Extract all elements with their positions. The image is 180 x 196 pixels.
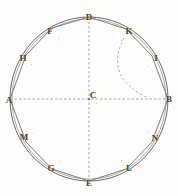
vertex-label-L: L [126,164,132,173]
speck-mark [58,38,59,39]
speck-mark [31,64,32,65]
vertex-label-G: G [47,164,54,173]
speck-mark [148,66,149,67]
vertex-label-E: E [86,179,92,188]
construction-arc [118,38,146,97]
vertex-label-D: D [86,13,93,22]
speck-mark [121,160,122,161]
speck-mark [96,103,97,104]
vertex-label-A: A [6,96,13,105]
center-label-C: C [90,91,97,100]
vertex-label-M: M [20,133,29,142]
speck-mark [33,133,34,134]
vertex-label-K: K [125,27,132,36]
vertex-label-B: B [166,95,172,104]
speck-mark [148,131,149,132]
geometry-figure: A H F D K I B N L E G M C [0,0,180,196]
speck-mark [121,40,122,41]
vertex-label-N: N [152,134,159,143]
vertex-label-F: F [47,27,53,36]
speck-mark [59,161,60,162]
vertex-label-H: H [19,54,26,63]
vertex-label-I: I [154,54,158,63]
